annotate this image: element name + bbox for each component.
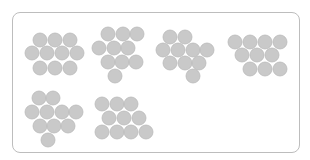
counter-dot [107, 41, 121, 55]
counter-dot [102, 111, 116, 125]
counter-dot [178, 30, 192, 44]
counter-dot [47, 119, 61, 133]
counter-dot [48, 33, 62, 47]
counter-dot [33, 119, 47, 133]
counter-dot [40, 105, 54, 119]
counter-dot [32, 91, 46, 105]
counter-dot [178, 56, 192, 70]
counter-dot [69, 105, 83, 119]
counter-dot [139, 125, 153, 139]
counter-dot [129, 55, 143, 69]
counter-dot [163, 30, 177, 44]
counters-diagram [0, 0, 310, 160]
counter-group-4 [228, 35, 287, 76]
counter-dot [33, 61, 47, 75]
counter-dot [55, 46, 69, 60]
counter-dot [273, 62, 287, 76]
counter-dot [41, 133, 55, 147]
counter-dot [46, 91, 60, 105]
counter-dot [156, 43, 170, 57]
counter-group-5 [25, 91, 83, 147]
counter-dot [265, 48, 279, 62]
counter-dot [40, 46, 54, 60]
counter-dot [110, 125, 124, 139]
counter-group-2 [92, 27, 144, 83]
counter-dot [243, 62, 257, 76]
counter-dot [258, 35, 272, 49]
counter-group-1 [25, 33, 84, 75]
counter-group-6 [95, 97, 153, 139]
counter-dot [124, 97, 138, 111]
counter-dot [70, 46, 84, 60]
counter-dot [115, 55, 129, 69]
counter-dot [108, 69, 122, 83]
counter-dot [235, 48, 249, 62]
counter-dot [121, 41, 135, 55]
counter-dot [33, 33, 47, 47]
counter-dot [163, 56, 177, 70]
counter-dot [258, 62, 272, 76]
counter-dot [228, 35, 242, 49]
counter-dot [192, 56, 206, 70]
counter-dot [250, 48, 264, 62]
counter-dot [117, 111, 131, 125]
counter-dot [273, 35, 287, 49]
counter-dot [95, 97, 109, 111]
counter-dot [25, 46, 39, 60]
counter-dot [63, 33, 77, 47]
counter-dot [200, 43, 214, 57]
counter-dot [186, 69, 200, 83]
counter-dot [124, 125, 138, 139]
counter-dot [61, 119, 75, 133]
counter-dot [25, 105, 39, 119]
counter-dot [130, 27, 144, 41]
counter-dot [243, 35, 257, 49]
counter-dot [171, 43, 185, 57]
counter-dot [116, 27, 130, 41]
counter-dot [48, 61, 62, 75]
counter-dot [95, 125, 109, 139]
counter-group-3 [156, 30, 214, 83]
counter-dot [63, 61, 77, 75]
counter-dot [101, 27, 115, 41]
counter-dot [132, 111, 146, 125]
counter-dot [186, 43, 200, 57]
counter-dot [110, 97, 124, 111]
counter-dot [92, 41, 106, 55]
counter-dot [101, 55, 115, 69]
counter-dot [55, 105, 69, 119]
